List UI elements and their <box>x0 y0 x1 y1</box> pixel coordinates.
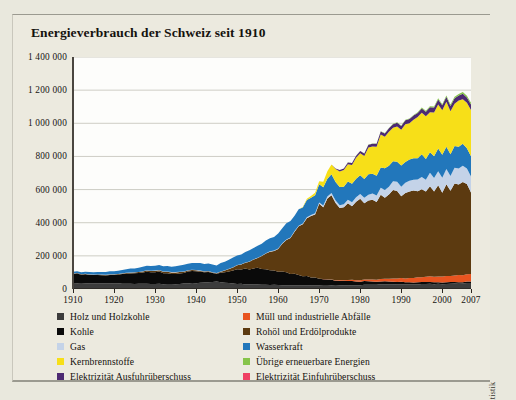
legend-item: Kohle <box>57 324 243 338</box>
legend-swatch-icon <box>57 373 64 380</box>
legend-item-label: Holz und Holzkohle <box>70 311 150 322</box>
x-axis-tick <box>442 289 443 293</box>
x-axis-tick-label: 1970 <box>309 295 328 305</box>
figure-frame: Energieverbrauch der Schweiz seit 1910 0… <box>12 14 490 382</box>
x-axis-tick <box>237 289 238 293</box>
y-axis-tick-label: 800 000 <box>35 151 67 161</box>
legend-item: Kernbrennstoffe <box>57 354 243 368</box>
legend-swatch-icon <box>243 343 250 350</box>
legend-swatch-icon <box>243 328 250 335</box>
legend-swatch-icon <box>57 313 64 320</box>
legend-swatch-icon <box>243 313 250 320</box>
legend-item: Müll und industrielle Abfälle <box>243 309 477 323</box>
x-axis-tick-label: 1980 <box>351 295 370 305</box>
x-axis-tick <box>196 289 197 293</box>
x-axis-tick-label: 1940 <box>186 295 205 305</box>
x-axis-tick <box>360 289 361 293</box>
x-axis-tick <box>401 289 402 293</box>
y-axis-tick-label: 400 000 <box>35 218 67 228</box>
x-axis-tick-label: 2000 <box>433 295 452 305</box>
y-axis-tick-label: 200 000 <box>35 251 67 261</box>
y-axis-tick-label: 0 <box>62 284 67 294</box>
x-axis-tick-label: 1920 <box>104 295 123 305</box>
x-axis-tick <box>471 289 472 293</box>
legend-item-label: Elektrizität Einfuhrüberschuss <box>256 371 375 382</box>
legend-item: Elektrizität Ausfuhrüberschuss <box>57 369 243 383</box>
stacked-area-canvas <box>73 57 471 289</box>
legend-item: Wasserkraft <box>243 339 477 353</box>
legend-item: Elektrizität Einfuhrüberschuss <box>243 369 477 383</box>
x-axis-tick <box>155 289 156 293</box>
x-axis-tick <box>73 289 74 293</box>
legend-swatch-icon <box>57 343 64 350</box>
legend-item-label: Übrige erneuerbare Energien <box>256 356 370 367</box>
y-axis-tick-label: 1 400 000 <box>28 52 67 62</box>
legend-item-label: Gas <box>70 341 85 352</box>
x-axis-tick-label: 1950 <box>227 295 246 305</box>
x-axis-tick-label: 1930 <box>145 295 164 305</box>
x-axis-tick <box>319 289 320 293</box>
y-axis-tick-label: 1 000 000 <box>28 118 67 128</box>
legend-swatch-icon <box>243 358 250 365</box>
legend-item: Rohöl und Erdölprodukte <box>243 324 477 338</box>
stacked-area-svg <box>73 57 471 289</box>
legend-item: Übrige erneuerbare Energien <box>243 354 477 368</box>
x-axis-tick-label: 1990 <box>392 295 411 305</box>
legend-item-label: Wasserkraft <box>256 341 303 352</box>
page-title: Energieverbrauch der Schweiz seit 1910 <box>31 25 266 41</box>
legend-item: Holz und Holzkohle <box>57 309 243 323</box>
legend-item-label: Kernbrennstoffe <box>70 356 134 367</box>
legend-swatch-icon <box>243 373 250 380</box>
x-axis-tick-label: 1960 <box>268 295 287 305</box>
legend-item-label: Elektrizität Ausfuhrüberschuss <box>70 371 191 382</box>
legend-item-label: Müll und industrielle Abfälle <box>256 311 371 322</box>
chart-legend: Holz und HolzkohleMüll und industrielle … <box>57 309 477 383</box>
legend-item-label: Kohle <box>70 326 94 337</box>
area-band <box>73 182 471 280</box>
legend-item: Gas <box>57 339 243 353</box>
y-axis-tick-label: 1 200 000 <box>28 85 67 95</box>
legend-item-label: Rohöl und Erdölprodukte <box>256 326 356 337</box>
source-note: Quelle: Schweizerische Gesamtenergiestat… <box>488 382 497 400</box>
legend-swatch-icon <box>57 358 64 365</box>
y-axis-line <box>72 57 74 289</box>
legend-swatch-icon <box>57 328 64 335</box>
x-axis-tick-label: 2007 <box>461 295 480 305</box>
x-axis-tick-label: 1910 <box>63 295 82 305</box>
chart-plot-area: 0200 000400 000600 000800 0001 000 0001 … <box>73 57 471 289</box>
x-axis-tick <box>114 289 115 293</box>
y-axis-tick-label: 600 000 <box>35 185 67 195</box>
x-axis-tick <box>278 289 279 293</box>
